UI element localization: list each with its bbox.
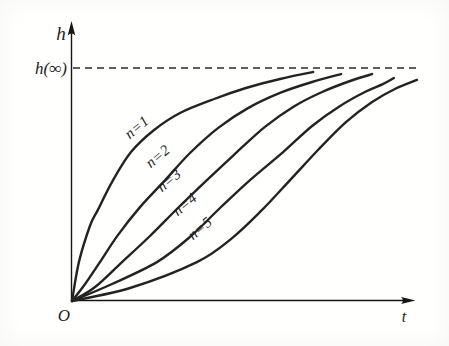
curve-label-n1: n=1	[121, 112, 152, 141]
curve-n1	[72, 72, 313, 301]
y-axis-label: h	[56, 23, 66, 44]
curve-n3	[72, 74, 372, 301]
x-axis-label: t	[402, 308, 407, 325]
curve-labels: n=1 n=2 n=3 n=4 n=5	[121, 112, 215, 242]
step-response-chart: n=1 n=2 n=3 n=4 n=5 h h(∞) O t	[0, 0, 449, 346]
figure-canvas: n=1 n=2 n=3 n=4 n=5 h h(∞) O t	[0, 0, 449, 346]
curve-n4	[72, 78, 394, 301]
curve-n2	[72, 74, 341, 301]
origin-label: O	[58, 306, 70, 325]
y-axis-arrow-icon	[68, 21, 76, 36]
curve-label-n3: n=3	[154, 165, 185, 194]
curve-n5	[72, 80, 417, 301]
curve-label-n4: n=4	[169, 189, 200, 218]
asymptote-label: h(∞)	[35, 59, 67, 78]
curve-family	[72, 72, 417, 301]
x-axis-arrow-icon	[401, 297, 416, 304]
curve-label-n2: n=2	[142, 141, 173, 170]
axes	[68, 21, 416, 304]
